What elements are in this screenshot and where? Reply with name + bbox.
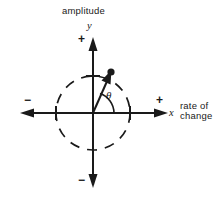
y-axis-symbol-label: y — [87, 20, 92, 31]
x-axis-positive-sign: + — [156, 93, 163, 107]
x-axis-symbol-label: x — [169, 107, 174, 118]
y-axis-negative-sign: − — [78, 173, 85, 187]
phasor-vector-tip-dot — [107, 68, 114, 75]
amplitude-axis-title: amplitude — [62, 6, 105, 16]
phasor-diagram-figure: amplitude rate ofchange y x θ + − − + — [0, 0, 221, 203]
x-axis-right-arrowhead — [154, 109, 168, 118]
x-axis-negative-sign: − — [24, 93, 31, 107]
rate-of-change-line2: change — [180, 110, 212, 121]
rate-of-change-axis-title: rate ofchange — [180, 101, 212, 121]
y-axis-bottom-arrowhead — [89, 174, 98, 188]
y-axis-positive-sign: + — [78, 32, 85, 46]
x-axis-left-arrowhead — [20, 109, 34, 118]
theta-angle-label: θ — [106, 90, 111, 102]
y-axis-top-arrowhead — [89, 37, 98, 51]
